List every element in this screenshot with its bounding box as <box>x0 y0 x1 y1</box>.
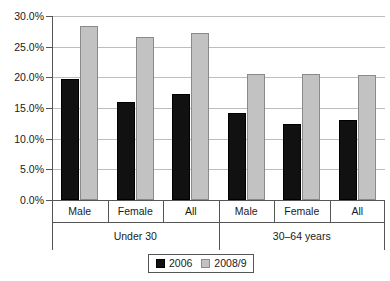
group-axis: Under 3030–64 years <box>52 222 385 250</box>
y-axis-tick-label: 15.0% <box>14 102 44 114</box>
bar-2006-all-under30 <box>172 94 190 200</box>
category-separator <box>163 200 164 222</box>
bar-2006-female-under30 <box>117 102 135 200</box>
bar-chart: 0.0%5.0%10.0%15.0%20.0%25.0%30.0% MaleFe… <box>0 0 390 281</box>
group-separator <box>384 222 385 250</box>
category-separator <box>219 200 220 222</box>
legend-item-label: 2006 <box>169 258 192 269</box>
category-axis: MaleFemaleAllMaleFemaleAll <box>52 200 385 223</box>
y-axis-tick-label: 5.0% <box>20 163 44 175</box>
y-axis-tick-label: 20.0% <box>14 71 44 83</box>
bar-2006-all-30to64 <box>339 120 357 200</box>
bar-2006-male-30to64 <box>228 113 246 200</box>
group-separator <box>52 222 53 250</box>
category-label-male-30to64: Male <box>219 200 275 222</box>
bar-2008-9-female-under30 <box>136 37 154 200</box>
category-label-male-under30: Male <box>52 200 108 222</box>
bar-2008-9-all-under30 <box>191 33 209 200</box>
bar-2008-9-male-30to64 <box>247 74 265 200</box>
y-axis-tick-label: 0.0% <box>20 194 44 206</box>
category-separator <box>274 200 275 222</box>
bars-layer <box>52 16 385 200</box>
group-label-30to64: 30–64 years <box>219 222 386 250</box>
y-axis-tick-label: 25.0% <box>14 41 44 53</box>
category-separator <box>108 200 109 222</box>
bar-2008-9-female-30to64 <box>302 74 320 200</box>
category-separator <box>52 200 53 222</box>
bar-2006-female-30to64 <box>283 124 301 200</box>
grey-square-swatch-icon <box>201 259 210 268</box>
bar-2008-9-all-30to64 <box>358 75 376 200</box>
legend-item: 2008/9 <box>201 258 246 269</box>
legend-item: 2006 <box>156 258 192 269</box>
group-label-under30: Under 30 <box>52 222 219 250</box>
bar-2008-9-male-under30 <box>80 26 98 200</box>
group-separator <box>219 222 220 250</box>
bar-2006-male-under30 <box>61 79 79 200</box>
black-square-swatch-icon <box>156 259 165 268</box>
category-label-female-under30: Female <box>108 200 164 222</box>
category-label-all-30to64: All <box>330 200 386 222</box>
legend-item-label: 2008/9 <box>214 258 246 269</box>
category-label-all-under30: All <box>163 200 219 222</box>
y-axis-tick-label: 30.0% <box>14 10 44 22</box>
category-separator <box>384 200 385 222</box>
y-axis-tick-label: 10.0% <box>14 133 44 145</box>
category-label-female-30to64: Female <box>274 200 330 222</box>
chart-legend: 2006 2008/9 <box>148 254 254 273</box>
category-separator <box>330 200 331 222</box>
